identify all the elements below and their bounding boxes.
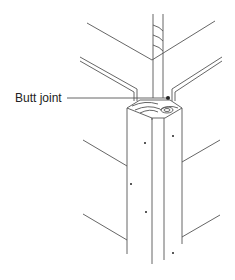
corner-post-diagram	[0, 0, 235, 280]
left-siding	[83, 140, 127, 240]
right-siding	[182, 140, 220, 237]
post-body	[127, 108, 182, 264]
right-sill	[172, 57, 222, 101]
upper-walls	[87, 21, 215, 60]
post-top	[127, 100, 182, 120]
left-sill	[80, 57, 137, 101]
joint-dot	[166, 96, 170, 100]
